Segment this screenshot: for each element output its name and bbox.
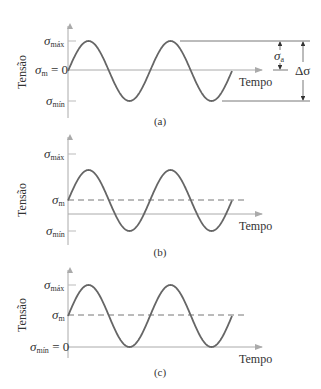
caption-a: (a) — [154, 115, 167, 128]
label-sigma-max: σmáx — [44, 33, 64, 49]
y-axis-label: Tensão — [15, 183, 29, 217]
stress-wave — [68, 41, 232, 101]
label-sigma-amplitude: σa — [274, 48, 284, 64]
x-axis-label: Tempo — [239, 75, 272, 89]
label-delta-sigma: Δσ — [295, 63, 310, 78]
panel-c: Tensão σmáx σm σmín = 0 Tempo (c) — [15, 270, 272, 379]
label-sigma-min: σmín — [46, 93, 65, 109]
label-sigma-mean: σm — [52, 307, 65, 323]
label-sigma-mean: σm — [52, 192, 65, 208]
panel-b: Tensão σmáx σm σmín Tempo (b) — [15, 137, 272, 259]
label-sigma-min: σmín — [46, 223, 65, 239]
panel-a: Tensão σmáx σm = 0 σmín Tempo σa Δσ (a) — [15, 26, 310, 128]
label-sigma-max: σmáx — [44, 146, 64, 162]
y-axis-label: Tensão — [15, 55, 29, 89]
stress-wave — [68, 285, 232, 347]
label-sigma-mean: σm = 0 — [35, 62, 68, 78]
x-axis-label: Tempo — [239, 219, 272, 233]
caption-c: (c) — [154, 366, 167, 379]
stress-cycle-diagram: Tensão σmáx σm = 0 σmín Tempo σa Δσ (a) … — [0, 0, 321, 389]
y-axis-label: Tensão — [15, 298, 29, 332]
label-sigma-max: σmáx — [44, 277, 64, 293]
caption-b: (b) — [154, 246, 167, 259]
x-axis-label: Tempo — [239, 352, 272, 366]
label-sigma-min: σmín = 0 — [30, 339, 69, 355]
